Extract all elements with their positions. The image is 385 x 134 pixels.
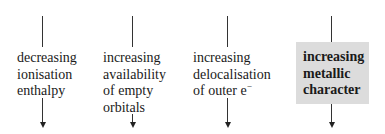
col4-top-line: [331, 16, 332, 42]
col1-label: decreasing ionisation enthalpy: [17, 50, 77, 100]
col1-arrow-down-icon: [40, 122, 46, 128]
col4-bottom-line: [331, 104, 332, 122]
col1-line2: ionisation: [17, 67, 77, 84]
col2-arrow-down-icon: [130, 122, 136, 128]
col3-line1: increasing: [193, 50, 271, 67]
col4-line2: metallic: [303, 66, 364, 83]
col2-top-line: [132, 16, 133, 47]
col3-bottom-line: [227, 98, 228, 122]
col4-arrow-down-icon: [329, 122, 335, 128]
col2-line3: of empty: [103, 83, 166, 100]
col3-arrow-down-icon: [225, 122, 231, 128]
col2-line2: availability: [103, 67, 166, 84]
col4-line1: increasing: [303, 49, 364, 66]
col1-line3: enthalpy: [17, 83, 77, 100]
col1-bottom-line: [42, 98, 43, 122]
col3-line2: delocalisation: [193, 67, 271, 84]
col3-label: increasing delocalisation of outer e−: [193, 50, 271, 100]
col3-superscript: −: [247, 81, 252, 91]
col2-line4: orbitals: [103, 100, 166, 117]
col3-top-line: [227, 16, 228, 47]
col3-line3: of outer e−: [193, 83, 271, 100]
col2-bottom-line: [132, 114, 133, 122]
col2-line1: increasing: [103, 50, 166, 67]
col4-line3: character: [303, 82, 364, 99]
col4-label: increasing metallic character: [303, 49, 364, 99]
col1-top-line: [42, 16, 43, 47]
col2-label: increasing availability of empty orbital…: [103, 50, 166, 116]
col1-line1: decreasing: [17, 50, 77, 67]
